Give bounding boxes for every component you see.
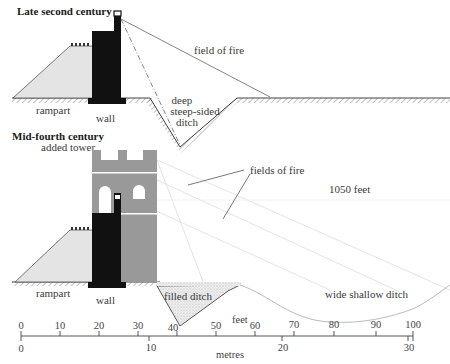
feet-label: feet [232,314,248,325]
metre-ticks [149,336,408,341]
filled-ditch-label: filled ditch [164,290,212,302]
fields-of-fire-lines [121,160,450,300]
feet-tick-20: 20 [94,320,105,331]
rampart-label-lower: rampart [36,287,70,299]
metre-tick-10: 10 [146,342,157,353]
feet-tick-100: 100 [405,319,421,330]
feet-tick-40: 40 [168,322,179,333]
feet-tick-10: 10 [55,320,66,331]
fields-of-fire-label: fields of fire [250,164,304,176]
rampart [13,46,93,98]
bottom-panel: Mid-fourth century added tower [12,130,450,326]
rampart-lower [15,230,93,282]
rampart-label: rampart [36,104,70,116]
feet-tick-70: 70 [289,319,300,330]
ground-surface-lower [12,282,160,286]
feet-tick-0: 0 [18,320,23,331]
metre-tick-20: 20 [278,342,289,353]
metre-tick-0: 0 [18,343,23,354]
field-of-fire-label: field of fire [194,44,244,56]
fields-of-fire-leaders [188,170,250,219]
feet-tick-80: 80 [329,319,340,330]
top-panel-title: Late second century [17,5,112,17]
wall-label: wall [96,112,115,124]
added-tower-label: added tower [41,141,95,153]
metre-tick-30: 30 [404,342,415,353]
scale-bar: 0 10 20 30 40 50 60 70 80 90 100 feet 0 … [18,314,421,360]
feet-tick-90: 90 [371,319,382,330]
feet-tick-50: 50 [211,320,222,331]
roman-fort-defences-diagram: Late second century field of fire [0,0,450,364]
feet-tick-60: 60 [250,320,261,331]
distance-label: 1050 feet [329,183,370,195]
metres-label: metres [216,349,244,360]
rampart-walkway-dots [71,43,89,46]
feet-tick-30: 30 [133,320,144,331]
wide-ditch-label: wide shallow ditch [325,288,409,300]
tower-window-left [99,186,111,214]
rampart-walkway-dots-lower [71,227,89,230]
wall [88,11,126,104]
tower-window-right [133,185,145,199]
ditch-label-3: ditch [176,116,198,128]
wall-label-lower: wall [96,294,115,306]
